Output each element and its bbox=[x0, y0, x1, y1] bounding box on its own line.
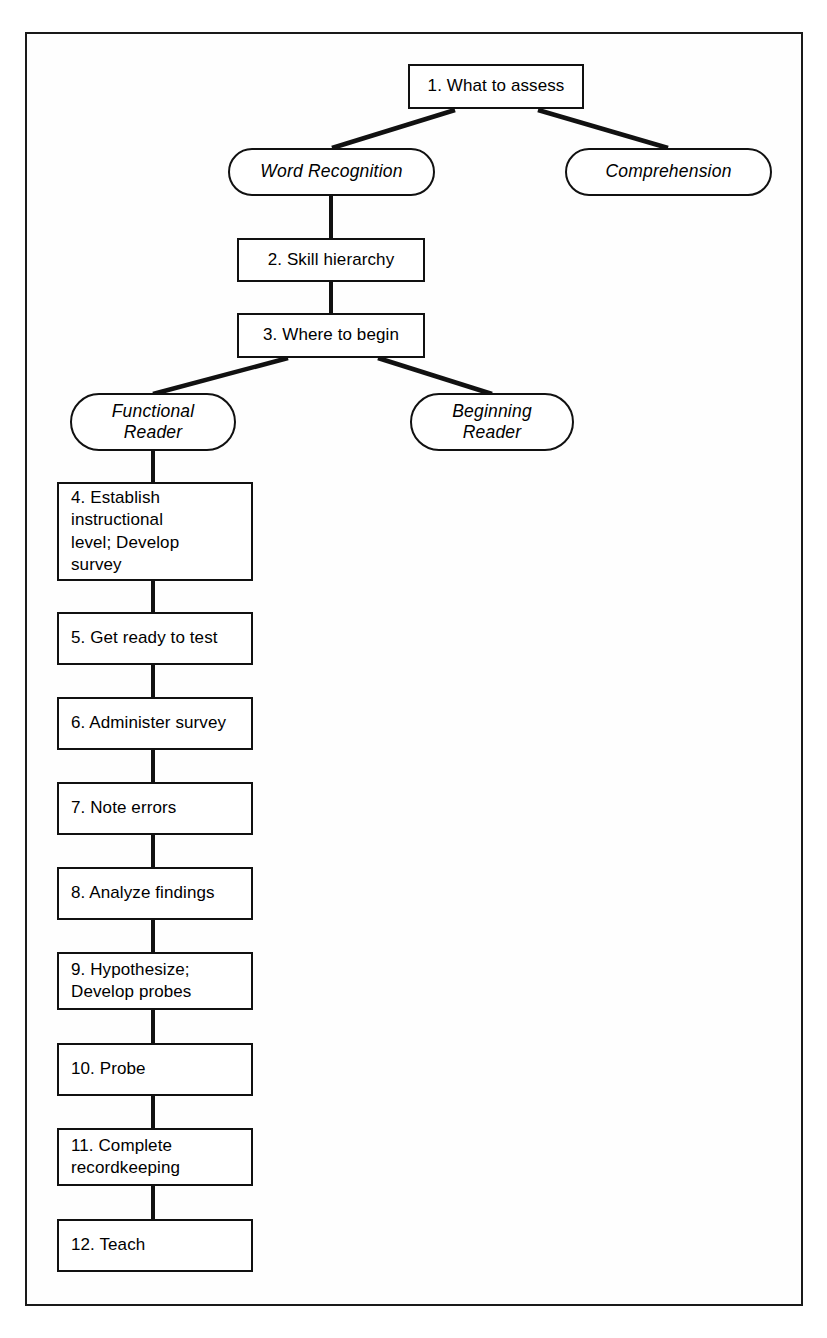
connector-n1-to-n2 bbox=[332, 110, 455, 148]
flow-node-label: 8. Analyze findings bbox=[59, 882, 221, 904]
flow-node-n1[interactable]: 1. What to assess bbox=[408, 64, 584, 109]
flow-node-n8[interactable]: 4. Establish instructional level; Develo… bbox=[57, 482, 253, 581]
flow-node-label: 2. Skill hierarchy bbox=[268, 249, 395, 271]
flow-node-label: 7. Note errors bbox=[59, 797, 182, 819]
connector-n1-to-n3 bbox=[538, 110, 668, 148]
flow-node-label: Beginning Reader bbox=[442, 401, 542, 444]
flow-node-label: Word Recognition bbox=[250, 161, 412, 182]
flow-node-n9[interactable]: 5. Get ready to test bbox=[57, 612, 253, 665]
flow-node-n14[interactable]: 10. Probe bbox=[57, 1043, 253, 1096]
flow-node-label: Functional Reader bbox=[102, 401, 205, 444]
connector-n5-to-n6 bbox=[153, 358, 288, 394]
flow-node-label: 6. Administer survey bbox=[59, 712, 232, 734]
flow-node-label: 5. Get ready to test bbox=[59, 627, 224, 649]
flow-node-label: 12. Teach bbox=[59, 1234, 151, 1256]
flow-node-n10[interactable]: 6. Administer survey bbox=[57, 697, 253, 750]
flow-node-n12[interactable]: 8. Analyze findings bbox=[57, 867, 253, 920]
flow-node-n15[interactable]: 11. Complete recordkeeping bbox=[57, 1128, 253, 1186]
flow-node-label: 10. Probe bbox=[59, 1058, 152, 1080]
flow-node-n11[interactable]: 7. Note errors bbox=[57, 782, 253, 835]
flow-node-label: 1. What to assess bbox=[428, 75, 565, 97]
flow-node-label: 4. Establish instructional level; Develo… bbox=[59, 487, 185, 575]
flow-node-n6[interactable]: Functional Reader bbox=[70, 393, 236, 451]
flow-node-n5[interactable]: 3. Where to begin bbox=[237, 313, 425, 358]
connector-n5-to-n7 bbox=[378, 358, 492, 394]
flow-node-n13[interactable]: 9. Hypothesize; Develop probes bbox=[57, 952, 253, 1010]
flow-node-label: 3. Where to begin bbox=[263, 324, 399, 346]
flow-node-n3[interactable]: Comprehension bbox=[565, 148, 772, 196]
flow-node-n2[interactable]: Word Recognition bbox=[228, 148, 435, 196]
flow-node-n16[interactable]: 12. Teach bbox=[57, 1219, 253, 1272]
flow-node-n4[interactable]: 2. Skill hierarchy bbox=[237, 238, 425, 282]
flow-node-label: Comprehension bbox=[595, 161, 741, 182]
flow-node-label: 9. Hypothesize; Develop probes bbox=[59, 959, 197, 1003]
flow-node-label: 11. Complete recordkeeping bbox=[59, 1135, 186, 1179]
flow-node-n7[interactable]: Beginning Reader bbox=[410, 393, 574, 451]
